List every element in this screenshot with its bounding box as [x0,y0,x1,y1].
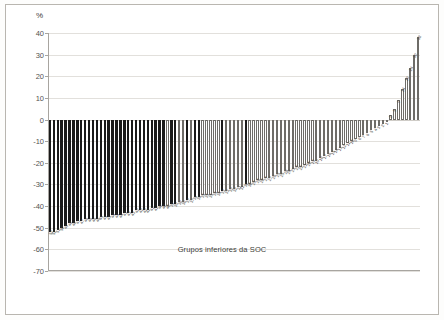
bar [217,120,219,194]
bar [307,120,309,163]
y-tick-label: 30 [36,50,44,59]
bar [264,120,266,178]
bar [221,120,223,191]
bar [115,120,117,215]
bar [237,120,239,187]
bar [288,120,290,172]
bar [119,120,121,215]
bar [182,120,184,202]
bar [96,120,98,220]
plot-area: 403020100-10-20-30-40-50-60-70 525251504… [48,33,420,271]
y-tick-label: 20 [36,72,44,81]
y-tick-label: -70 [33,267,44,276]
bar [88,120,90,220]
bar-series: 5252515049484847474646464645454544444443… [48,33,420,271]
y-axis-unit-label: % [36,11,43,20]
bar [72,120,74,224]
bar [233,120,235,189]
bar [76,120,78,222]
bar [111,120,113,215]
bar [107,120,109,217]
y-tick-label: -50 [33,223,44,232]
bar [401,89,403,119]
bar [57,120,59,230]
bar [194,120,196,198]
bar [174,120,176,204]
bar [409,68,411,120]
bar [268,120,270,178]
bar [335,120,337,150]
bar [252,120,254,183]
bar [342,120,344,146]
bar [292,120,294,170]
bar [354,120,356,139]
bar [198,120,200,198]
bar [362,120,364,135]
bar [178,120,180,202]
bar [84,120,86,220]
bar [323,120,325,157]
bar [53,120,55,233]
chart-figure: % 403020100-10-20-30-40-50-60-70 5252515… [0,0,444,320]
bar [299,120,301,168]
bar [100,120,102,217]
y-tick-label: 10 [36,93,44,102]
bar [143,120,145,211]
bar [339,120,341,148]
bar [315,120,317,161]
bar [154,120,156,209]
bar [241,120,243,187]
y-tick-label: -40 [33,202,44,211]
bar [151,120,153,209]
y-tick-label: 0 [40,115,44,124]
bar [80,120,82,222]
bar [104,120,106,217]
bar [209,120,211,196]
bar [256,120,258,181]
bar [248,120,250,185]
bar [190,120,192,200]
y-tick-label: -10 [33,137,44,146]
bar [147,120,149,211]
y-tick-label: -30 [33,180,44,189]
y-tick-label: 40 [36,29,44,38]
bar [158,120,160,207]
bar [276,120,278,174]
bar [295,120,297,168]
bar [417,37,419,119]
bar [49,120,51,233]
bar [358,120,360,137]
bar [311,120,313,161]
bar [139,120,141,211]
bar [260,120,262,181]
bar [327,120,329,155]
bar [331,120,333,152]
bar [68,120,70,224]
bar [413,55,415,120]
bar [303,120,305,165]
bar [186,120,188,200]
bar [162,120,164,207]
bar [319,120,321,159]
bar [280,120,282,174]
bar [201,120,203,196]
bar [131,120,133,213]
bar [213,120,215,194]
bar [205,120,207,196]
bar [127,120,129,213]
bar [135,120,137,211]
bar [170,120,172,204]
bar [272,120,274,176]
bar [64,120,66,226]
bar [92,120,94,220]
bar [166,120,168,207]
bar [245,120,247,185]
y-tick-mark [45,271,48,272]
bar [225,120,227,191]
bar [229,120,231,189]
bar [284,120,286,172]
bar [123,120,125,213]
gridline [48,271,420,272]
bar [405,78,407,119]
x-axis-title: Grupos inferiores da SOC [0,245,444,254]
